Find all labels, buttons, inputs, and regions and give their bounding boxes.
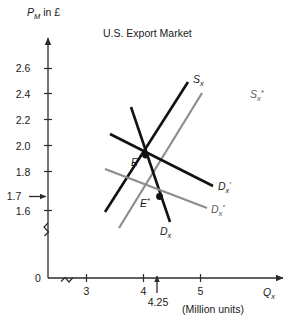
price-annotation-label: 1.7 [7, 190, 22, 202]
chart-text-layer: PM in £ U.S. Export Market 2.6 2.4 2.2 2… [0, 0, 299, 325]
x-tick-label-5: 5 [198, 285, 204, 297]
curve-label-sx-star: Sx* [250, 88, 265, 103]
units-note: (Million units) [182, 303, 244, 315]
x-tick-label-3: 3 [84, 285, 90, 297]
y-tick-label-2-6: 2.6 [16, 62, 31, 74]
y-tick-label-2-0: 2.0 [16, 140, 31, 152]
y-axis-title: PM in £ [27, 6, 60, 21]
equilibrium-label-e-star: E* [140, 196, 151, 209]
x-tick-label-4: 4 [141, 285, 147, 297]
y-tick-label-1-8: 1.8 [16, 166, 31, 178]
curve-label-dx: Dx [160, 225, 172, 240]
curve-label-sx: Sx [193, 73, 204, 88]
origin-label: 0 [35, 272, 41, 284]
y-tick-label-2-4: 2.4 [16, 88, 31, 100]
export-market-chart: PM in £ U.S. Export Market 2.6 2.4 2.2 2… [0, 0, 299, 325]
curve-label-dx-prime: Dx′ [218, 180, 231, 195]
y-tick-label-1-6: 1.6 [16, 205, 31, 217]
y-tick-label-2-2: 2.2 [16, 114, 31, 126]
quantity-annotation-label: 4.25 [148, 296, 169, 308]
chart-title: U.S. Export Market [103, 27, 192, 39]
equilibrium-label-e: E [131, 156, 139, 168]
x-axis-title: Qx [263, 286, 275, 301]
curve-label-dx-double-prime: Dx″ [211, 203, 225, 218]
